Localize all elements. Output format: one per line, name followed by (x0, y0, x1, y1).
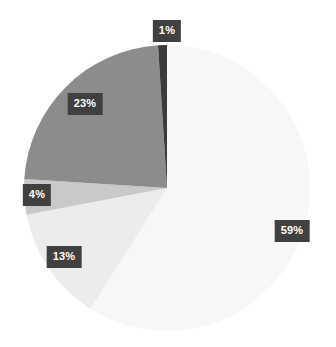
pie-chart: 59%13%4%23%1% (0, 0, 336, 347)
pie-slice[interactable] (24, 45, 167, 188)
pie-slice-label: 13% (47, 246, 82, 268)
pie-slice-label: 1% (153, 20, 181, 42)
pie-slice-group (24, 45, 310, 331)
pie-slice-label: 23% (68, 93, 103, 115)
pie-chart-canvas (0, 0, 336, 347)
pie-slice-label: 59% (275, 220, 310, 242)
pie-slice-label: 4% (23, 184, 51, 206)
